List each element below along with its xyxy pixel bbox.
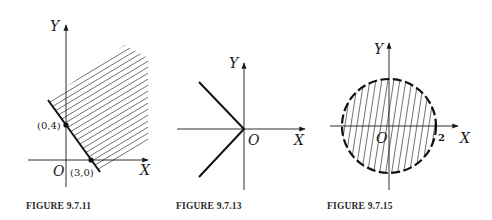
origin-label: O	[53, 163, 65, 179]
y-axis-label: Y	[50, 18, 61, 34]
x-axis-label: X	[459, 130, 471, 146]
figure-caption: FIGURE 9.7.15	[327, 201, 393, 211]
figure-9-7-11: Y X O (0,4) (3,0) FIGURE 9.7.11	[20, 0, 180, 220]
figures-canvas: Y X O (0,4) (3,0) FIGURE 9.7.11 Y X O FI…	[0, 0, 492, 220]
point-label-3-0: (3,0)	[70, 167, 94, 178]
graph-rays	[199, 82, 244, 177]
figure-9-7-15: Y X O 2 FIGURE 9.7.15	[317, 41, 471, 211]
figure-caption: FIGURE 9.7.13	[176, 201, 242, 211]
x-axis-label: X	[293, 132, 305, 148]
y-axis-label: Y	[374, 41, 385, 57]
x-axis-label: X	[139, 162, 151, 178]
origin-label: O	[376, 130, 388, 146]
origin-label: O	[248, 132, 260, 148]
point-3-0	[88, 157, 93, 162]
tick-label-2: 2	[438, 132, 445, 143]
figure-9-7-13: Y X O FIGURE 9.7.13	[176, 55, 305, 211]
hatched-half-plane	[20, 0, 180, 220]
point-label-0-4: (0,4)	[37, 120, 61, 131]
y-axis-label: Y	[229, 55, 240, 71]
point-0-4	[63, 122, 68, 127]
figure-caption: FIGURE 9.7.11	[26, 201, 91, 211]
